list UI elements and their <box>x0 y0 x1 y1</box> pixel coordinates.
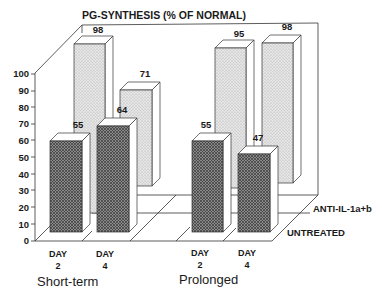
y-tick-label: 100 <box>13 68 29 79</box>
x-category-label: 2 <box>197 260 202 270</box>
y-tick-label: 10 <box>18 219 29 230</box>
y-tick-label: 70 <box>18 118 29 129</box>
value-label: 64 <box>117 104 128 115</box>
y-tick-label: 90 <box>18 85 29 96</box>
value-label: 95 <box>234 28 245 39</box>
y-tick-label: 30 <box>18 185 29 196</box>
value-label: 55 <box>73 119 84 130</box>
y-tick-label: 50 <box>18 152 29 163</box>
y-axis: 0 10 20 30 40 50 60 70 80 90 100 <box>13 68 35 246</box>
x-category-label: DAY <box>49 249 67 259</box>
x-category-label: DAY <box>96 249 114 259</box>
group-label-prolonged: Prolonged <box>179 272 238 287</box>
x-category-label: 4 <box>102 261 107 271</box>
bar-untreated-short-day2 <box>50 133 90 232</box>
x-category-label: DAY <box>191 248 209 258</box>
bar-untreated-short-day4 <box>97 118 137 232</box>
legend-untreated: UNTREATED <box>287 227 345 238</box>
value-label: 71 <box>140 68 151 79</box>
x-category-label: 2 <box>55 261 60 271</box>
legend-anti-il-1ab: ANTI-IL-1a+b <box>313 203 372 214</box>
chart-title: PG-SYNTHESIS (% OF NORMAL) <box>82 9 246 21</box>
value-label: 98 <box>93 24 104 35</box>
y-tick-label: 80 <box>18 102 29 113</box>
y-tick-label: 60 <box>18 135 29 146</box>
y-tick-label: 40 <box>18 169 29 180</box>
x-category-label: DAY <box>238 248 256 258</box>
bar-untreated-prolonged-day2 <box>192 133 231 232</box>
value-label: 47 <box>253 132 264 143</box>
group-label-short-term: Short-term <box>37 274 98 289</box>
chart-canvas: PG-SYNTHESIS (% OF NORMAL) 0 10 20 30 40 <box>0 0 382 293</box>
value-label: 98 <box>282 21 293 32</box>
y-tick-label: 0 <box>24 235 29 246</box>
value-label: 55 <box>201 119 212 130</box>
bar-untreated-prolonged-day4 <box>238 146 278 232</box>
x-category-label: 4 <box>244 260 249 270</box>
y-tick-label: 20 <box>18 202 29 213</box>
